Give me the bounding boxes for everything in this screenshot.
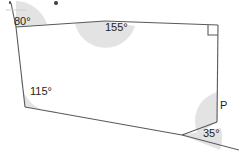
angle-label-155: 155°: [105, 22, 128, 33]
angle-label-P: P: [220, 100, 227, 111]
angle-label-80: 80°: [14, 16, 31, 27]
right-angle-square-icon: [208, 25, 218, 35]
crop-artifact-smudge: [6, 9, 26, 11]
geometry-diagram: 80° 155° 115° P 35°: [0, 0, 239, 162]
angle-label-35: 35°: [203, 128, 220, 139]
angle-label-115: 115°: [30, 86, 52, 97]
crop-artifact-dot-mid: [54, 1, 58, 5]
crop-artifact-dot-left: [9, 1, 11, 4]
edge-right: [217, 25, 218, 122]
edge-left: [16, 27, 25, 107]
edge-bottom-left: [25, 107, 182, 135]
